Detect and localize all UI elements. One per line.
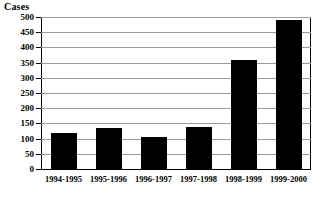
bar-chart: Cases 050100150200250300350400450500 199…	[0, 0, 328, 197]
y-axis-label: 450	[21, 28, 35, 37]
bar	[51, 133, 77, 169]
x-axis-label: 1999-2000	[266, 174, 311, 184]
plot-area	[41, 17, 311, 169]
x-axis-label: 1996-1997	[131, 174, 176, 184]
y-axis-label: 300	[21, 74, 35, 83]
x-axis-label: 1995-1996	[86, 174, 131, 184]
y-axis-label: 400	[21, 43, 35, 52]
y-axis-label: 250	[21, 89, 35, 98]
y-axis-label: 150	[21, 119, 35, 128]
y-axis-label: 200	[21, 104, 35, 113]
bar	[141, 137, 167, 169]
y-axis-tick	[36, 169, 41, 170]
x-axis-label: 1994-1995	[41, 174, 86, 184]
y-axis-label: 350	[21, 59, 35, 68]
y-axis-label: 0	[30, 165, 35, 174]
y-axis-label: 500	[21, 13, 35, 22]
y-axis-label: 100	[21, 135, 35, 144]
bar	[276, 20, 302, 169]
gridline	[41, 169, 311, 170]
x-axis-label: 1998-1999	[221, 174, 266, 184]
bar	[96, 128, 122, 169]
bar	[186, 127, 212, 169]
y-axis-label: 50	[25, 150, 34, 159]
x-axis-label: 1997-1998	[176, 174, 221, 184]
bar	[231, 60, 257, 169]
